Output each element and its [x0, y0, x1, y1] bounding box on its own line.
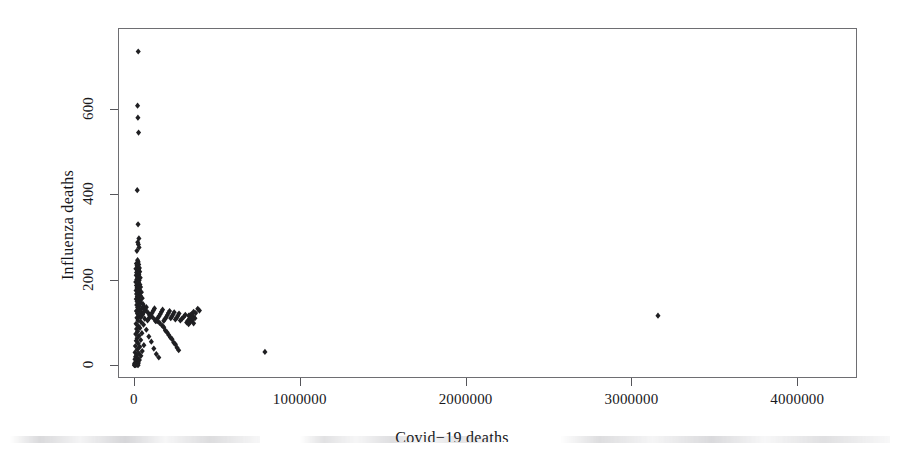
data-points-layer [118, 28, 857, 378]
x-tick-mark [134, 378, 135, 386]
data-point [135, 115, 140, 121]
data-point [144, 327, 149, 333]
data-points-svg [118, 28, 857, 378]
x-axis-label: Covid−19 deaths [0, 428, 904, 447]
y-tick-mark [110, 194, 118, 195]
y-tick-label: 200 [81, 257, 96, 301]
data-point [135, 187, 140, 193]
data-point [146, 333, 151, 339]
data-point [655, 313, 660, 319]
data-point [151, 345, 156, 351]
y-tick-mark [110, 109, 118, 110]
x-tick-mark [466, 378, 467, 386]
x-tick-mark [631, 378, 632, 386]
data-point [135, 103, 140, 109]
x-tick-label: 1000000 [240, 391, 360, 408]
x-tick-mark [300, 378, 301, 386]
data-point [136, 221, 141, 227]
x-tick-label: 4000000 [737, 391, 857, 408]
y-tick-label: 600 [81, 87, 96, 131]
y-axis-label: Influenza deaths [59, 170, 77, 280]
y-tick-label: 400 [81, 172, 96, 216]
data-point [136, 48, 141, 54]
y-tick-mark [110, 365, 118, 366]
data-point [141, 342, 146, 348]
y-tick-mark [110, 280, 118, 281]
x-tick-label: 2000000 [406, 391, 526, 408]
data-point [149, 339, 154, 345]
data-point [262, 349, 267, 355]
x-tick-mark [797, 378, 798, 386]
data-point [136, 129, 141, 135]
x-tick-label: 3000000 [571, 391, 691, 408]
y-tick-label: 0 [81, 343, 96, 387]
x-tick-label: 0 [74, 391, 194, 408]
scatter-plot-figure: 01000000200000030000004000000 0200400600… [0, 0, 904, 471]
